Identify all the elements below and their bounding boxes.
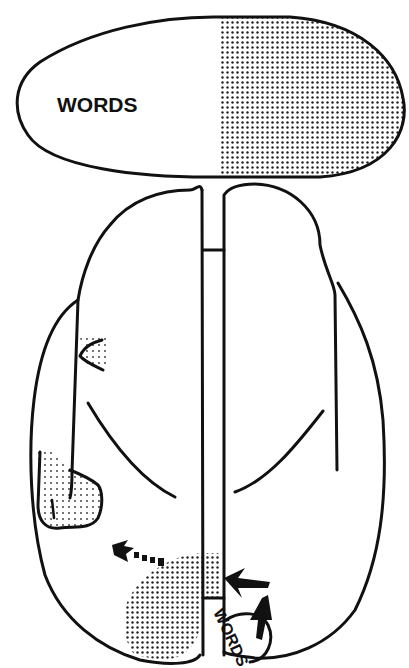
arrow-into-corpus-callosum-icon	[224, 568, 270, 598]
dashed-arrow-head-icon	[112, 540, 134, 562]
right-sylvian-curve	[235, 411, 323, 492]
alexia-diagram: WORDS WORDS	[0, 0, 409, 668]
stippled-lesion-temporal	[36, 452, 101, 530]
right-temporal-outline	[224, 283, 384, 658]
left-medial-line	[202, 190, 203, 655]
visual-field: WORDS	[17, 17, 404, 177]
stippled-lesion-occipital	[124, 553, 200, 660]
occipital-words-label: WORDS	[210, 606, 251, 668]
dashed-arrow-left	[112, 540, 164, 566]
visual-field-words-label: WORDS	[57, 93, 138, 116]
left-sylvian-curve	[88, 403, 175, 497]
